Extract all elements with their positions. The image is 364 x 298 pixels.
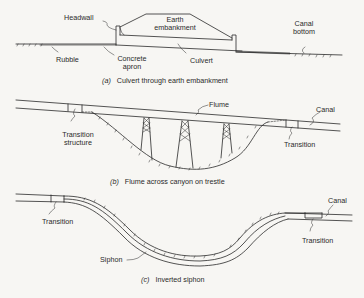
transition-structure-left bbox=[68, 104, 82, 112]
label-concrete-line2: apron bbox=[112, 63, 152, 71]
label-canal-c: Canal bbox=[328, 197, 347, 205]
leader-concrete-apron bbox=[104, 47, 114, 55]
diagram-drawing bbox=[0, 0, 364, 298]
siphon-pipe-bottom bbox=[64, 202, 288, 266]
caption-b: (b)Flume across canyon on trestle bbox=[110, 177, 225, 186]
label-culvert: Culvert bbox=[190, 57, 213, 65]
panel-c-drawing bbox=[16, 194, 352, 266]
hydraulic-structures-figure: Headwall Earth embankment Canal bottom R… bbox=[0, 0, 364, 298]
caption-c-text: Inverted siphon bbox=[155, 275, 204, 284]
leader-transition-right-c bbox=[310, 219, 313, 231]
trestle-2 bbox=[176, 121, 193, 168]
label-transition-left-c: Transition bbox=[42, 218, 73, 226]
label-rubble: Rubble bbox=[56, 56, 79, 64]
trestle-3 bbox=[221, 124, 232, 158]
canal-right-bottom bbox=[288, 219, 352, 221]
headwall-fillet bbox=[120, 28, 124, 35]
label-canal-bottom-line2: bottom bbox=[284, 28, 324, 36]
label-flume: Flume bbox=[209, 101, 229, 109]
culvert-top bbox=[120, 35, 232, 40]
canal-left-bottom bbox=[16, 201, 64, 202]
flume-top-line bbox=[16, 100, 340, 124]
caption-c-tag: (c) bbox=[141, 275, 149, 284]
ground-profile bbox=[64, 196, 305, 256]
leader-rubble bbox=[52, 47, 58, 52]
caption-c: (c)Inverted siphon bbox=[141, 275, 205, 284]
trestle-1 bbox=[141, 118, 152, 160]
canal-left-top bbox=[16, 194, 64, 196]
label-siphon: Siphon bbox=[100, 256, 122, 264]
leader-siphon bbox=[127, 252, 146, 260]
ground-line-right bbox=[236, 52, 342, 55]
canyon-dashed-right bbox=[268, 120, 286, 122]
leader-transition-structure bbox=[71, 109, 75, 121]
headwall-right bbox=[232, 35, 236, 51]
label-transition-structure: Transition structure bbox=[56, 131, 100, 147]
leader-transition-left-c bbox=[49, 202, 56, 214]
caption-a-tag: (a) bbox=[102, 76, 111, 85]
label-transition-right-c: Transition bbox=[302, 237, 333, 245]
leader-canal-bottom bbox=[302, 47, 305, 53]
label-earth-embankment: Earth embankment bbox=[150, 16, 200, 32]
caption-b-text: Flume across canyon on trestle bbox=[125, 177, 225, 186]
caption-b-tag: (b) bbox=[110, 177, 119, 186]
label-earth-line2: embankment bbox=[150, 24, 200, 32]
label-transition-structure-line2: structure bbox=[56, 139, 100, 147]
label-canal-bottom: Canal bottom bbox=[284, 20, 324, 36]
caption-a-text: Culvert through earth embankment bbox=[117, 76, 228, 85]
caption-a: (a)Culvert through earth embankment bbox=[102, 76, 228, 85]
canyon-hatch bbox=[99, 117, 256, 170]
label-headwall: Headwall bbox=[64, 14, 94, 22]
label-transition-b: Transition bbox=[284, 141, 315, 149]
label-concrete-apron: Concrete apron bbox=[112, 55, 152, 71]
leader-transition-b bbox=[289, 127, 292, 139]
headwall-left bbox=[116, 26, 120, 45]
siphon-pipe-top bbox=[64, 199, 285, 261]
leader-headwall bbox=[103, 21, 116, 30]
canyon-profile bbox=[92, 112, 268, 169]
label-canal-b: Canal bbox=[316, 106, 335, 114]
